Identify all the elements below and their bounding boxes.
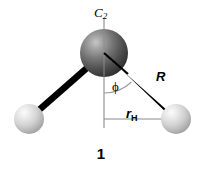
- hydrogen-right-atom: [161, 104, 191, 134]
- figure-caption: 1: [0, 146, 202, 161]
- h-distance-label-subscript: H: [131, 113, 138, 123]
- h-distance-label: rH: [126, 107, 138, 123]
- hydrogen-left-atom: [14, 104, 44, 134]
- c2-axis-label-text: C: [94, 5, 103, 20]
- molecule-figure: C2 ϕ R rH 1: [0, 0, 202, 174]
- phi-angle-label: ϕ: [112, 80, 119, 93]
- bond-length-label: R: [156, 70, 165, 83]
- c2-axis-label: C2: [94, 6, 107, 21]
- c2-axis-label-subscript: 2: [103, 11, 108, 21]
